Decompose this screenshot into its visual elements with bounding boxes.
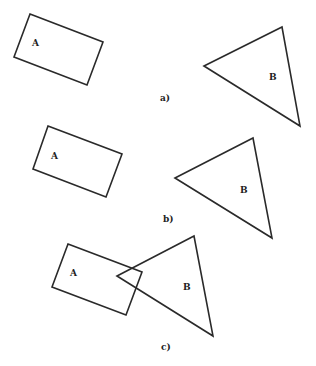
rectangle-a xyxy=(14,14,103,85)
diagram-canvas: A B a) A B b) A B c) xyxy=(0,0,316,366)
rectangle-a xyxy=(52,244,142,315)
triangle-label: B xyxy=(183,282,191,292)
rectangle-label: A xyxy=(31,38,40,48)
rectangle-label: A xyxy=(69,268,78,278)
panel-a: A B a) xyxy=(14,14,300,126)
triangle-label: B xyxy=(269,72,277,82)
panel-caption: c) xyxy=(161,342,171,352)
triangle-b xyxy=(175,138,272,238)
panel-b: A B b) xyxy=(33,126,272,238)
triangle-label: B xyxy=(240,185,248,195)
panel-c: A B c) xyxy=(52,236,213,352)
panel-caption: b) xyxy=(163,214,174,224)
panel-caption: a) xyxy=(160,93,170,103)
diagram-svg: A B a) A B b) A B c) xyxy=(0,0,316,366)
triangle-b xyxy=(204,27,300,126)
rectangle-a xyxy=(33,126,122,197)
rectangle-label: A xyxy=(50,151,59,161)
triangle-b xyxy=(117,236,213,336)
